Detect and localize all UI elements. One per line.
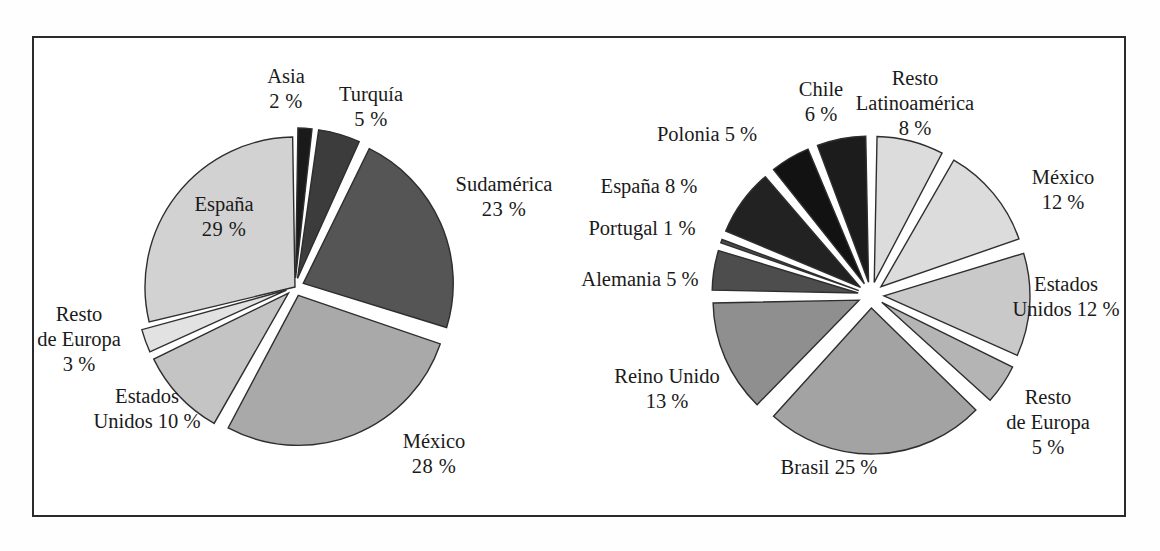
label-line: Reino Unido [614, 365, 719, 387]
label-line: Estados [1034, 273, 1098, 295]
label-line: Latinoamérica [856, 92, 974, 114]
label-line: de Europa [1006, 411, 1090, 434]
label-line: Chile [799, 78, 843, 100]
pie-label-alemania: Alemania 5 % [581, 268, 698, 290]
label-line: 8 % [899, 117, 931, 139]
pie-label-chile: Chile6 % [799, 78, 843, 125]
right-pie-svg: RestoLatinoamérica8 %México12 %EstadosUn… [564, 38, 1128, 519]
pie-label-portugal: Portugal 1 % [588, 217, 695, 240]
pie-label-asia: Asia2 % [267, 65, 305, 112]
label-line: 12 % [1042, 191, 1085, 213]
label-line: Unidos 12 % [1012, 298, 1119, 320]
label-line: Resto [892, 67, 939, 89]
pie-label-brasil: Brasil 25 % [781, 456, 878, 478]
left-pie-slices [142, 128, 453, 445]
figure-frame: Asia2 %Turquía5 %Sudamérica23 %México28 … [32, 36, 1126, 517]
label-line: Portugal 1 % [588, 217, 695, 240]
pie-label-polonia: Polonia 5 % [657, 123, 757, 145]
label-value: 2 % [269, 90, 303, 112]
label-line: México [1032, 166, 1095, 188]
pie-label-espa-a: España 8 % [601, 175, 698, 198]
label-line: de Europa [37, 328, 121, 351]
label-value: 5 % [354, 108, 388, 130]
pie-label-m-xico: México12 % [1032, 166, 1095, 213]
label-line: Resto [56, 303, 103, 325]
right-pie-slices [712, 136, 1030, 454]
label-line: Resto [1025, 386, 1072, 408]
label-line: Brasil 25 % [781, 456, 878, 478]
label-line: 3 % [63, 353, 95, 375]
left-pie-svg: Asia2 %Turquía5 %Sudamérica23 %México28 … [34, 38, 574, 519]
label-line: Turquía [339, 83, 403, 106]
label-value: 23 % [482, 198, 526, 220]
label-line: Asia [267, 65, 305, 87]
left-pie-chart: Asia2 %Turquía5 %Sudamérica23 %México28 … [34, 38, 574, 519]
pie-label-sudam-rica: Sudamérica23 % [456, 173, 553, 220]
pie-label-reino-unido: Reino Unido13 % [614, 365, 719, 412]
label-line: Estados [115, 385, 179, 407]
label-line: 13 % [646, 390, 689, 412]
label-line: Polonia 5 % [657, 123, 757, 145]
pie-label-resto-latinoam-rica: RestoLatinoamérica8 % [856, 67, 974, 139]
label-line: Alemania 5 % [581, 268, 698, 290]
label-line: España 8 % [601, 175, 698, 198]
pie-label-resto-de-europa: Restode Europa3 % [37, 303, 121, 375]
pie-label-turqu-a: Turquía5 % [339, 83, 403, 130]
label-value: 28 % [412, 455, 456, 477]
label-value: 29 % [202, 218, 246, 240]
figure-page: Asia2 %Turquía5 %Sudamérica23 %México28 … [0, 0, 1160, 551]
pie-label-resto-de-europa: Restode Europa5 % [1006, 386, 1090, 458]
label-line: 5 % [1032, 436, 1064, 458]
right-pie-chart: RestoLatinoamérica8 %México12 %EstadosUn… [564, 38, 1128, 519]
label-line: España [194, 193, 253, 216]
label-line: 6 % [805, 103, 837, 125]
pie-label-m-xico: México28 % [403, 430, 466, 477]
label-line: México [403, 430, 466, 452]
label-line: Sudamérica [456, 173, 553, 195]
label-line: Unidos 10 % [93, 410, 200, 432]
